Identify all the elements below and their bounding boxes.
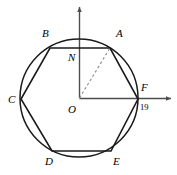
label-point-a: A xyxy=(116,28,123,39)
label-point-c: C xyxy=(8,94,15,105)
label-point-d: D xyxy=(45,156,53,167)
geometry-figure: B A N C F 19 O D E xyxy=(0,0,177,175)
geometry-canvas xyxy=(0,0,177,175)
label-point-n: N xyxy=(68,52,75,63)
dashed-segment-oa xyxy=(80,48,111,98)
label-point-b: B xyxy=(42,28,49,39)
label-point-f: F xyxy=(141,82,148,93)
label-point-o: O xyxy=(68,104,76,115)
label-radius-value: 19 xyxy=(140,103,149,112)
label-point-e: E xyxy=(113,156,120,167)
